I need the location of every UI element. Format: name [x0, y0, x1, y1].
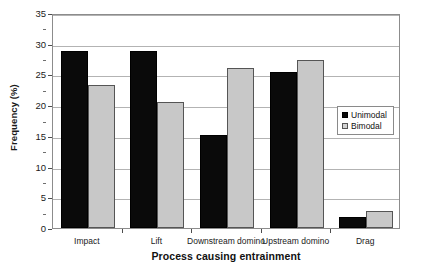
legend-label-bimodal: Bimodal	[351, 122, 382, 131]
gridline	[53, 46, 399, 47]
bar-bimodal-upstream-domino	[297, 60, 324, 228]
x-axis-category-label: Upstream domino	[262, 236, 329, 246]
y-axis-tick-label: 15	[6, 132, 46, 142]
x-axis-tick	[191, 229, 192, 233]
chart-legend: Unimodal Bimodal	[337, 106, 394, 135]
bar-bimodal-lift	[157, 102, 184, 228]
legend-label-unimodal: Unimodal	[351, 111, 387, 120]
y-axis-tick	[48, 168, 52, 169]
gridline	[53, 76, 399, 77]
y-axis-minor-tick	[43, 91, 46, 92]
y-axis-minor-tick	[43, 214, 46, 215]
y-axis-tick	[48, 137, 52, 138]
y-axis-tick	[48, 14, 52, 15]
y-axis-tick	[48, 45, 52, 46]
y-axis-tick-label: 35	[6, 9, 46, 19]
x-axis-category-label: Impact	[74, 236, 100, 246]
bar-unimodal-drag	[339, 217, 366, 228]
legend-item-bimodal: Bimodal	[342, 121, 389, 131]
x-axis-tick	[122, 229, 123, 233]
x-axis-tick	[330, 229, 331, 233]
legend-swatch-bimodal-icon	[342, 123, 348, 129]
y-axis-minor-tick	[43, 183, 46, 184]
y-axis-minor-tick	[43, 29, 46, 30]
bar-unimodal-downstream-domino	[200, 135, 227, 228]
x-axis-category-label: Drag	[356, 236, 374, 246]
bar-unimodal-impact	[61, 51, 88, 228]
y-axis-tick-label: 25	[6, 70, 46, 80]
gridline	[53, 15, 399, 16]
bar-bimodal-downstream-domino	[227, 68, 254, 228]
y-axis-tick	[48, 229, 52, 230]
y-axis-tick-label: 5	[6, 193, 46, 203]
legend-swatch-unimodal-icon	[342, 112, 348, 118]
y-axis-tick-label: 10	[6, 163, 46, 173]
x-axis-tick	[261, 229, 262, 233]
bar-unimodal-upstream-domino	[270, 72, 297, 228]
y-axis-minor-tick	[43, 122, 46, 123]
y-axis-tick	[48, 75, 52, 76]
x-axis-category-label: Downstream domino	[187, 236, 265, 246]
legend-item-unimodal: Unimodal	[342, 110, 389, 120]
bar-bimodal-impact	[88, 85, 115, 228]
bar-unimodal-lift	[130, 51, 157, 228]
bar-bimodal-drag	[366, 211, 393, 228]
bar-chart-figure: Frequency (%) 05101520253035ImpactLiftDo…	[0, 0, 424, 270]
y-axis-minor-tick	[43, 152, 46, 153]
y-axis-tick	[48, 198, 52, 199]
y-axis-tick-label: 30	[6, 40, 46, 50]
x-axis-category-label: Lift	[151, 236, 162, 246]
y-axis-minor-tick	[43, 60, 46, 61]
x-axis-title: Process causing entrainment	[52, 250, 400, 262]
y-axis-tick-label: 20	[6, 101, 46, 111]
y-axis-tick	[48, 106, 52, 107]
y-axis-tick-label: 0	[6, 224, 46, 234]
